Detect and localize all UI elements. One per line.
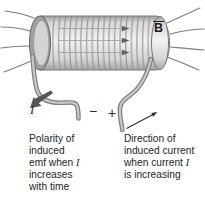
induced-current-arrow [127,112,158,129]
right-caption: Direction of induced current when curren… [124,133,194,181]
right-caption-line: when current I [124,157,194,169]
plus-terminal-label: + [108,105,116,121]
minus-terminal-label: − [89,103,97,119]
right-caption-line: Direction of [124,133,194,145]
inductor-emf-diagram: B I − + Polarity of induced emf when I i… [0,0,205,204]
coil-turns [49,17,155,70]
coil-left-opening-inner [34,20,49,65]
current-label: I [30,103,34,118]
left-caption-line: emf when I [29,157,79,169]
left-caption-line: induced [29,145,79,157]
right-caption-line: is increasing [124,169,194,181]
current-symbol: I [186,157,189,168]
magnetic-field-lines-right [167,8,204,70]
left-caption-line: increases [29,169,79,181]
left-caption-line: Polarity of [29,133,79,145]
current-symbol: I [76,157,79,168]
left-caption-line: with time [29,181,79,193]
magnetic-field-label: B [153,21,164,35]
right-caption-line: induced current [124,145,194,157]
left-caption: Polarity of induced emf when I increases… [29,133,79,193]
